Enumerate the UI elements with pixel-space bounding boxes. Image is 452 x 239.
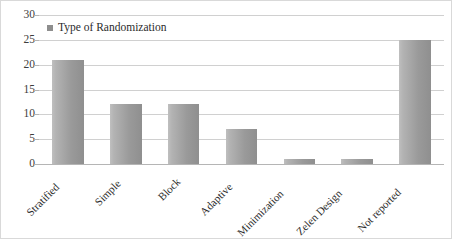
y-axis-tick-label: 25 [0,34,35,46]
y-axis-tick-label: 20 [0,59,35,71]
legend-swatch-icon [47,25,53,31]
y-axis-tick-label: 30 [0,9,35,21]
bar-slot [226,15,258,164]
bar-chart: 051015202530 Type of Randomization Strat… [0,0,452,239]
bar-slot [110,15,142,164]
bar-slot [341,15,373,164]
y-axis-tick-mark [34,139,39,140]
y-axis-tick-mark [34,65,39,66]
bar-slot [284,15,316,164]
x-axis-labels: StratifiedSimpleBlockAdaptiveMinimizatio… [39,165,444,239]
x-axis-label-slot: Simple [97,165,155,239]
bars-group [39,15,444,164]
x-axis-label-text: Block [156,176,182,202]
y-axis-tick-mark [34,40,39,41]
x-axis-label-slot: Not reported [386,165,444,239]
y-axis-tick-mark [34,114,39,115]
chart-legend: Type of Randomization [47,22,166,34]
bar-slot [399,15,431,164]
legend-label: Type of Randomization [58,22,166,34]
y-axis-tick-label: 15 [0,84,35,96]
y-axis-tick-label: 5 [0,133,35,145]
bar[interactable] [52,60,84,164]
y-axis-tick-mark [34,90,39,91]
y-axis-tick-label: 0 [0,158,35,170]
x-axis-label-text: Stratified [25,181,62,218]
x-axis-label-slot: Stratified [39,165,97,239]
bar-slot [52,15,84,164]
bar[interactable] [399,40,431,164]
y-axis-tick-mark [34,15,39,16]
plot-area: 051015202530 [39,15,444,164]
bar-slot [168,15,200,164]
x-axis-label-text: Simple [93,178,123,208]
y-axis-tick-label: 10 [0,109,35,121]
bar[interactable] [168,104,200,164]
